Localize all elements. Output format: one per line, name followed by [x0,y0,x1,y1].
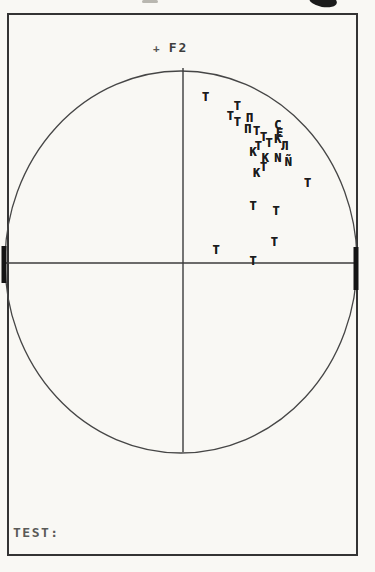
data-point-18-T: T [260,162,267,174]
data-point-5-Π: Π [244,124,251,136]
data-point-1-T: T [234,101,241,113]
data-point-19-K: K [253,168,260,180]
scanned-factor-plot-page: +F2 TTTTΠΠCETTKTЛTKKNÑTKTTTTTT TEST: 4.A… [0,0,375,572]
data-point-14-K: K [250,147,257,159]
data-point-16-N: N [274,152,281,164]
data-point-21-T: T [250,200,257,212]
data-point-22-T: T [272,206,279,218]
data-point-3-T: T [234,116,241,128]
data-point-11-T: T [265,137,272,149]
data-point-25-T: T [250,255,257,267]
data-point-0-T: T [202,91,209,103]
data-point-24-T: T [213,244,220,256]
data-point-23-T: T [271,236,278,248]
data-point-12-Л: Л [281,141,288,153]
data-point-17-Ñ: Ñ [285,156,292,168]
data-point-20-T: T [304,177,311,189]
caption-test-label: TEST: [13,522,343,543]
caption-block: TEST: 4.Aufbaust.86*38 Bogen F2 = 0.71 /… [13,480,343,572]
